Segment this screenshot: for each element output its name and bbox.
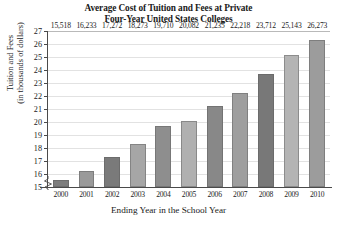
bar-value-label: 16,233 xyxy=(76,21,96,30)
x-axis-tick-label: 2001 xyxy=(74,190,100,199)
bar-value-label: 21,235 xyxy=(205,21,225,30)
x-axis-tick-label: 2009 xyxy=(279,190,305,199)
x-axis-tick-label: 2006 xyxy=(202,190,228,199)
bar-slot: 16,233 xyxy=(79,31,95,187)
bar-slot: 23,712 xyxy=(258,31,274,187)
bar-slot: 22,218 xyxy=(232,31,248,187)
bar[interactable] xyxy=(79,171,95,187)
bar-slot: 20,082 xyxy=(181,31,197,187)
bar-slot: 21,235 xyxy=(207,31,223,187)
bar[interactable] xyxy=(309,40,325,187)
x-axis-tick-label: 2000 xyxy=(48,190,74,199)
bar[interactable] xyxy=(207,106,223,187)
bar-value-label: 22,218 xyxy=(230,21,250,30)
bar-slot: 15,518 xyxy=(53,31,69,187)
bar-slot: 19,710 xyxy=(155,31,171,187)
y-axis-tick-label: 16 xyxy=(20,170,42,179)
x-axis-tick-labels: 2000200120022003200420052006200720082009… xyxy=(48,190,330,202)
y-axis-tick-label: 22 xyxy=(20,92,42,101)
y-axis-tick-label: 25 xyxy=(20,53,42,62)
bar-slot: 17,272 xyxy=(104,31,120,187)
y-axis-tick-label: 21 xyxy=(20,105,42,114)
y-axis-tick-label: 20 xyxy=(20,118,42,127)
bar[interactable] xyxy=(104,157,120,187)
bar-value-label: 25,143 xyxy=(282,21,302,30)
y-axis-title-line-1: Tuition and Fees xyxy=(6,0,16,138)
bar[interactable] xyxy=(181,121,197,187)
y-axis-tick-label: 17 xyxy=(20,157,42,166)
bar-value-label: 19,710 xyxy=(153,21,173,30)
bar-slot: 26,273 xyxy=(309,31,325,187)
bar[interactable] xyxy=(284,55,300,187)
x-axis-tick-label: 2010 xyxy=(304,190,330,199)
bar-slot: 18,273 xyxy=(130,31,146,187)
y-axis-tick-label: 23 xyxy=(20,79,42,88)
x-axis-tick-label: 2002 xyxy=(99,190,125,199)
chart-title-line-1: Average Cost of Tuition and Fees at Priv… xyxy=(0,3,337,14)
y-axis-tick-label: 26 xyxy=(20,40,42,49)
bar-chart: Average Cost of Tuition and Fees at Priv… xyxy=(0,0,337,227)
bar-value-label: 18,273 xyxy=(128,21,148,30)
bars-layer: 15,51816,23317,27218,27319,71020,08221,2… xyxy=(48,31,330,187)
bar[interactable] xyxy=(130,144,146,187)
x-axis-title: Ending Year in the School Year xyxy=(0,205,337,215)
bar-value-label: 15,518 xyxy=(51,21,71,30)
x-axis-tick-label: 2008 xyxy=(253,190,279,199)
bar-slot: 25,143 xyxy=(284,31,300,187)
y-axis-tick-label: 18 xyxy=(20,144,42,153)
y-axis-tick-label: 24 xyxy=(20,66,42,75)
bar-value-label: 20,082 xyxy=(179,21,199,30)
y-axis-tick-label: 15 xyxy=(20,183,42,192)
bar-value-label: 26,273 xyxy=(307,21,327,30)
x-axis-tick-label: 2003 xyxy=(125,190,151,199)
bar[interactable] xyxy=(53,180,69,187)
y-axis-tick-label: 27 xyxy=(20,27,42,36)
x-axis-tick-label: 2004 xyxy=(151,190,177,199)
bar[interactable] xyxy=(155,126,171,187)
bar[interactable] xyxy=(258,74,274,187)
x-axis-line xyxy=(40,187,332,188)
bar-value-label: 17,272 xyxy=(102,21,122,30)
x-axis-tick-label: 2007 xyxy=(227,190,253,199)
bar-value-label: 23,712 xyxy=(256,21,276,30)
y-axis-tick-label: 19 xyxy=(20,131,42,140)
x-axis-tick-label: 2005 xyxy=(176,190,202,199)
bar[interactable] xyxy=(232,93,248,187)
